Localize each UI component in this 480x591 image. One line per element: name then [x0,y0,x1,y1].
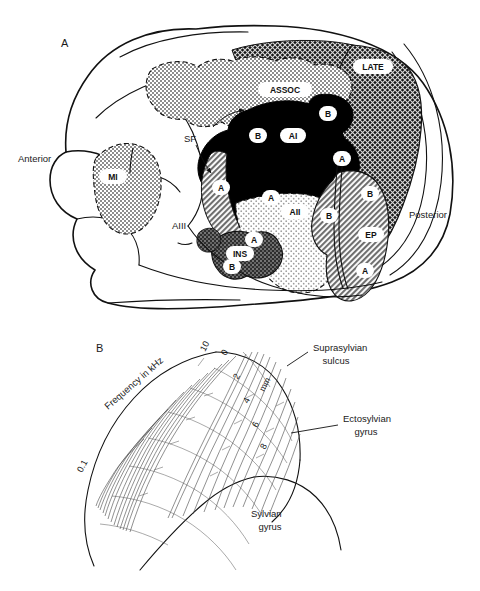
panel-a: A [18,26,453,309]
field-label-aii-b: B [326,211,332,221]
aiii-leader [178,243,192,245]
ectosylvian-gyrus-label-line2: gyrus [354,426,377,437]
field-label-assoc-group: ASSOC [258,82,312,97]
suprasylvian-sulcus-leader [287,352,308,366]
mm-tick-2: 2 [231,372,242,381]
field-label-ai-b-upper-group: B [319,106,337,121]
mm-tick-0: 0 [219,348,230,357]
field-label-mi: MI [108,172,117,182]
field-label-ins: INS [233,249,248,259]
suprasylvian-sulcus-label-line1: Suprasylvian [313,342,367,353]
field-label-ai-b-upper: B [325,109,331,119]
field-label-aii-group: AII [281,204,309,219]
mm-tick-8: 8 [258,442,269,451]
field-label-ep-a: A [362,266,368,276]
sulcus-ventral-2 [108,300,240,303]
mm-tick-6: 6 [250,420,261,429]
field-label-ai: AI [289,131,298,141]
field-label-late-group: LATE [353,59,393,74]
field-label-ai-group: AI [280,128,306,143]
field-label-ins-group: INS [226,246,254,261]
field-label-ins-b-group: B [223,259,241,274]
field-label-late: LATE [362,62,384,72]
figure-canvas: A [0,0,480,591]
field-aiii-dot [197,228,221,252]
field-label-aii: AII [290,207,301,217]
field-label-ins-a-group: A [245,232,263,247]
field-label-aii-a: A [268,193,274,203]
panel-b-letter: B [96,342,103,354]
field-label-ep-b-group: B [361,186,379,201]
field-label-ep: EP [365,230,377,240]
field-label-ai-a-right-group: A [333,151,351,166]
field-label-ins-b: B [229,262,235,272]
frequency-tick-10: 10 [198,339,212,353]
field-label-ai-a-left-group: A [212,180,230,195]
cortex-outline-left [85,352,216,566]
figure-root: A [0,0,480,591]
field-label-ep-b: B [367,189,373,199]
field-label-ai-a-right: A [339,154,345,164]
field-label-aii-b-group: B [320,208,338,223]
sulcus-dorsal-1 [120,32,248,57]
field-label-ep-a-group: A [356,263,374,278]
field-label-ai-a-left: A [218,183,224,193]
panel-a-letter: A [61,37,69,49]
field-label-ai-b: B [255,131,261,141]
ectosylvian-gyrus-label-line1: Ectosylvian [343,413,391,424]
field-label-aiii: AIII [172,220,186,231]
frequency-tick-0-1: 0.1 [75,458,90,474]
field-label-ins-a: A [251,235,257,245]
orientation-label-anterior: Anterior [18,153,51,164]
field-label-assoc: ASSOC [270,85,300,95]
field-label-aii-a-group: A [262,190,280,205]
field-label-ai-b-group: B [249,128,267,143]
sf-label: SF [184,133,196,144]
suprasylvian-sulcus-label-line2: sulcus [323,355,350,366]
mm-axis-title: mm [257,376,272,393]
panel-b: B [75,339,391,570]
frequency-axis-title: Frequency in kHz [102,355,165,412]
orientation-label-posterior: Posterior [409,209,447,220]
sylvian-gyrus-label-line2: gyrus [258,521,281,532]
field-mi [93,143,161,234]
field-label-ep-group: EP [358,227,384,242]
field-label-mi-group: MI [99,169,127,184]
sylvian-gyrus-label-line1: Sylvian [251,508,282,519]
